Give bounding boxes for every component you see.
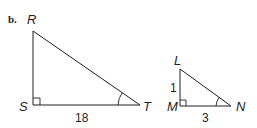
- side-label-mn: 3: [202, 111, 209, 125]
- triangle-rst: [33, 31, 140, 105]
- right-angle-marker-m: [180, 100, 186, 106]
- right-angle-marker-s: [33, 98, 40, 105]
- diagram-canvas: b. R S T 18 L M N 1 3: [0, 0, 257, 128]
- vertex-label-m: M: [167, 99, 178, 114]
- vertex-label-t: T: [143, 99, 152, 114]
- side-label-st: 18: [75, 111, 89, 125]
- part-label: b.: [8, 13, 17, 25]
- vertex-label-n: N: [236, 99, 246, 114]
- triangle-lmn: [180, 69, 231, 106]
- triangle-lmn-shape: [180, 69, 231, 106]
- triangle-rst-shape: [33, 31, 140, 105]
- angle-arc-n: [216, 97, 220, 106]
- vertex-label-r: R: [27, 12, 36, 27]
- vertex-label-l: L: [174, 53, 181, 68]
- side-label-lm: 1: [170, 81, 177, 95]
- vertex-label-s: S: [19, 99, 28, 114]
- angle-arc-t: [118, 93, 122, 105]
